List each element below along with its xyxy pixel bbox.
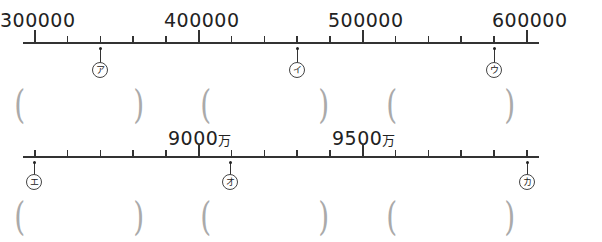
minor-tick (395, 36, 397, 43)
answer-u-close: ) (504, 84, 515, 124)
answer-o-open: ( (200, 196, 211, 236)
marker-i: イ (289, 62, 305, 78)
label-600000: 600000 (492, 11, 568, 30)
marker-u: ウ (486, 62, 502, 78)
minor-tick (165, 150, 167, 157)
minor-tick (165, 36, 167, 43)
minor-tick (329, 150, 331, 157)
label-9500-man: 9500万 (332, 129, 396, 148)
minor-tick (100, 150, 102, 157)
minor-tick (100, 36, 102, 43)
minor-tick (132, 36, 134, 43)
major-tick (362, 144, 364, 157)
label-300000: 300000 (0, 11, 76, 30)
answer-ka-open: ( (386, 196, 397, 236)
answer-i-close: ) (318, 84, 329, 124)
minor-tick (132, 150, 134, 157)
major-tick (198, 30, 200, 43)
minor-tick (428, 150, 430, 157)
pointer-dot-ka (526, 161, 529, 164)
minor-tick (395, 150, 397, 157)
marker-a: ア (92, 62, 108, 78)
minor-tick (231, 36, 233, 43)
label-500000: 500000 (328, 11, 404, 30)
minor-tick (67, 150, 69, 157)
pointer-dot-e (33, 161, 36, 164)
major-tick (198, 144, 200, 157)
minor-tick (493, 36, 495, 43)
major-tick (34, 30, 36, 43)
major-tick (362, 30, 364, 43)
answer-e-open: ( (14, 196, 25, 236)
marker-e: エ (26, 174, 42, 190)
minor-tick (296, 150, 298, 157)
pointer-dot-o (229, 161, 232, 164)
minor-tick (428, 36, 430, 43)
label-400000: 400000 (164, 11, 240, 30)
answer-o-close: ) (318, 196, 329, 236)
marker-ka: カ (519, 174, 535, 190)
minor-tick (329, 36, 331, 43)
minor-tick (526, 150, 528, 157)
minor-tick (231, 150, 233, 157)
minor-tick (296, 36, 298, 43)
minor-tick (67, 36, 69, 43)
answer-a-close: ) (133, 84, 144, 124)
answer-a-open: ( (14, 84, 25, 124)
label-9000-man: 9000万 (168, 129, 232, 148)
minor-tick (493, 150, 495, 157)
pointer-dot-a (99, 47, 102, 50)
pointer-u (494, 49, 495, 63)
answer-u-open: ( (386, 84, 397, 124)
minor-tick (460, 150, 462, 157)
pointer-a (100, 49, 101, 63)
answer-e-close: ) (133, 196, 144, 236)
pointer-i (297, 49, 298, 63)
answer-ka-close: ) (504, 196, 515, 236)
minor-tick (460, 36, 462, 43)
minor-tick (264, 150, 266, 157)
major-tick (526, 30, 528, 43)
minor-tick (34, 150, 36, 157)
minor-tick (264, 36, 266, 43)
answer-i-open: ( (200, 84, 211, 124)
pointer-dot-u (493, 47, 496, 50)
marker-o: オ (222, 174, 238, 190)
pointer-dot-i (296, 47, 299, 50)
